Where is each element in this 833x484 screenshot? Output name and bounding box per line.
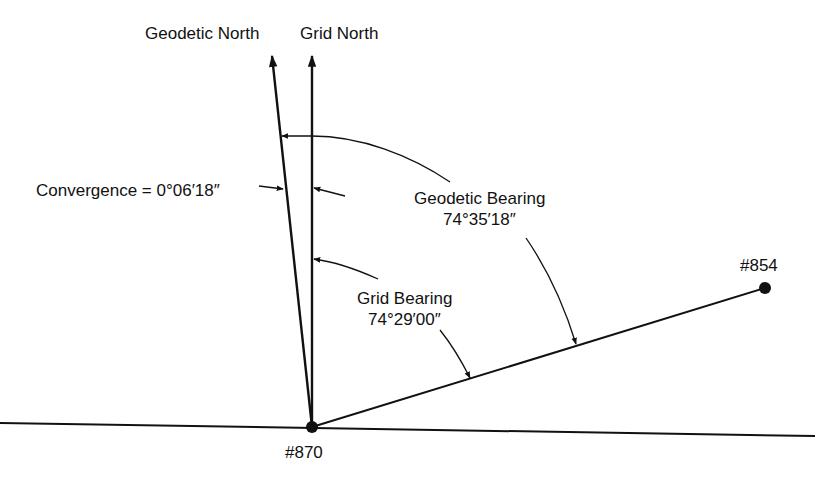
grid-north-label: Grid North xyxy=(300,24,378,43)
station-870-point xyxy=(306,421,318,433)
bearing-diagram: Geodetic North Grid North Convergence = … xyxy=(0,0,833,484)
grid-bearing-arc-lower xyxy=(440,330,470,378)
convergence-arrow-left xyxy=(259,186,283,189)
grid-bearing-arc-upper xyxy=(314,259,378,279)
geodetic-bearing-value: 74°35′18″ xyxy=(443,210,516,229)
grid-bearing-value: 74°29′00″ xyxy=(368,310,441,329)
line-870-to-854 xyxy=(312,288,765,427)
station-854-point xyxy=(759,282,771,294)
baseline xyxy=(0,423,815,436)
station-854-label: #854 xyxy=(740,256,778,275)
geodetic-north-label: Geodetic North xyxy=(145,24,259,43)
station-870-label: #870 xyxy=(285,443,323,462)
geodetic-bearing-title: Geodetic Bearing xyxy=(414,189,545,208)
convergence-label: Convergence = 0°06′18″ xyxy=(36,181,220,200)
convergence-arrow-right xyxy=(314,188,345,196)
geodetic-bearing-arc-upper xyxy=(282,136,450,182)
grid-bearing-title: Grid Bearing xyxy=(357,289,452,308)
geodetic-north-line xyxy=(272,56,312,427)
geodetic-bearing-arc-lower xyxy=(526,238,576,344)
